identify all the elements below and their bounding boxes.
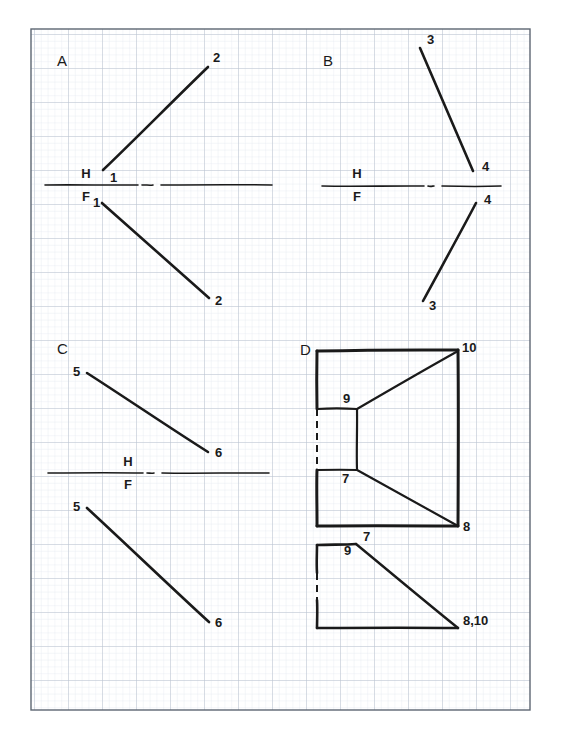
point-label-b-3: 3 xyxy=(429,298,436,313)
point-label-a-3: 2 xyxy=(215,293,222,308)
projection-worksheet-page: AHF1212BHF3443CHF5656D10978798,10 xyxy=(0,0,561,734)
fold-label-h-a: H xyxy=(81,166,90,181)
point-label-c-2: 5 xyxy=(73,499,80,514)
point-label-a-0: 1 xyxy=(110,170,117,185)
point-label-d-top-view-0: 10 xyxy=(462,340,476,355)
worksheet-drawing: AHF1212BHF3443CHF5656D10978798,10 xyxy=(0,0,561,734)
fold-label-f-b: F xyxy=(353,189,361,204)
point-label-d-front-view-0: 7 xyxy=(363,529,370,544)
point-label-d-top-view-3: 8 xyxy=(463,519,470,534)
fold-label-f-a: F xyxy=(82,189,90,204)
panel-letter-d: D xyxy=(300,341,311,358)
point-label-c-0: 5 xyxy=(73,364,80,379)
d-top-edge xyxy=(317,350,458,351)
point-label-a-2: 1 xyxy=(93,195,100,210)
point-label-b-2: 4 xyxy=(484,192,492,207)
point-label-c-3: 6 xyxy=(215,615,222,630)
point-label-b-1: 4 xyxy=(482,159,490,174)
point-label-b-0: 3 xyxy=(427,32,434,47)
d-notch-top xyxy=(317,408,357,409)
point-label-d-top-view-2: 7 xyxy=(342,471,349,486)
fold-label-f-c: F xyxy=(124,477,132,492)
panel-letter-a: A xyxy=(57,52,67,69)
point-label-a-1: 2 xyxy=(213,50,220,65)
point-label-d-top-view-1: 9 xyxy=(343,391,350,406)
panel-letter-b: B xyxy=(323,52,333,69)
fold-label-h-b: H xyxy=(352,166,361,181)
point-label-c-1: 6 xyxy=(215,445,222,460)
panel-letter-c: C xyxy=(57,340,68,357)
fold-label-h-c: H xyxy=(123,454,132,469)
point-label-d-front-view-2: 8,10 xyxy=(463,613,488,628)
point-label-d-front-view-1: 9 xyxy=(344,543,351,558)
